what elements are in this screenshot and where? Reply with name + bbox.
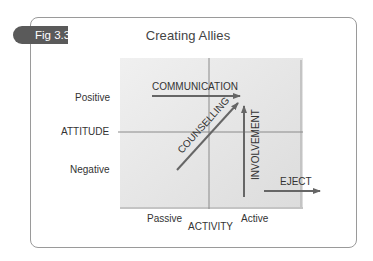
- x-low-label: Passive: [147, 213, 182, 224]
- x-high-label: Active: [241, 213, 268, 224]
- communication-label: COMMUNICATION: [152, 81, 238, 92]
- y-low-label: Negative: [70, 164, 109, 175]
- involvement-label: INVOLVEMENT: [250, 109, 261, 180]
- eject-label: EJECT: [280, 176, 312, 187]
- x-axis-label: ACTIVITY: [188, 221, 233, 232]
- y-high-label: Positive: [75, 92, 110, 103]
- diagram-canvas: COMMUNICATION COUNSELLING INVOLVEMENT EJ…: [0, 0, 373, 261]
- y-axis-label: ATTITUDE: [61, 126, 109, 137]
